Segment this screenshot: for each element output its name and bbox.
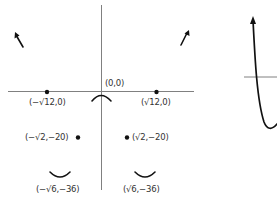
point-neg-sqrt12 xyxy=(45,90,49,94)
label-neg-sqrt12: (−√12,0) xyxy=(29,97,66,107)
label-pos-sqrt2: (√2,−20) xyxy=(132,132,169,142)
point-neg-sqrt2 xyxy=(76,135,80,139)
arrow-up-right-icon xyxy=(181,30,190,45)
point-pos-sqrt12 xyxy=(154,90,158,94)
label-neg-sqrt6: (−√6,−36) xyxy=(36,184,79,194)
origin-label: (0,0) xyxy=(105,78,124,88)
label-pos-sqrt12: (√12,0) xyxy=(141,97,171,107)
label-pos-sqrt6: (√6,−36) xyxy=(123,184,160,194)
arrow-up-left-icon xyxy=(15,32,24,47)
local-min-cup-left xyxy=(50,172,70,177)
right-arrow-up-icon xyxy=(250,16,256,24)
local-min-cup-right xyxy=(135,172,155,177)
point-pos-sqrt2 xyxy=(125,135,129,139)
right-curve xyxy=(253,20,277,128)
label-neg-sqrt2: (−√2,−20) xyxy=(25,132,68,142)
